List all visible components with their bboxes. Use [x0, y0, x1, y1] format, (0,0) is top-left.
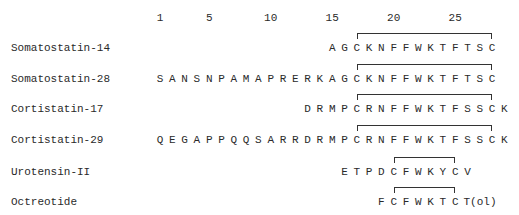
residue: R: [317, 103, 324, 115]
residue: R: [292, 134, 299, 146]
peptide-name: Somatostatin-14: [11, 42, 110, 54]
residue: C: [353, 42, 360, 54]
residue: G: [341, 73, 348, 85]
peptide-name: Cortistatin-29: [11, 134, 103, 146]
residue: M: [329, 103, 336, 115]
residue: F: [452, 103, 459, 115]
residue: T: [440, 42, 447, 54]
residue: G: [341, 42, 348, 54]
disulfide-bridge: [357, 125, 492, 131]
residue: C: [353, 73, 360, 85]
residue: M: [329, 134, 336, 146]
residue: C: [353, 134, 360, 146]
residue: T: [440, 134, 447, 146]
residue: E: [341, 166, 348, 178]
residue: W: [415, 42, 422, 54]
position-tick: 1: [157, 12, 164, 24]
residue: D: [304, 103, 311, 115]
residue: C: [489, 73, 496, 85]
residue: S: [476, 42, 483, 54]
residue: T: [353, 166, 360, 178]
residue: F: [390, 42, 397, 54]
residue: A: [267, 134, 274, 146]
residue: G: [181, 134, 188, 146]
residue: F: [403, 73, 410, 85]
residue: R: [317, 134, 324, 146]
disulfide-bridge: [357, 64, 492, 70]
residue: F: [390, 103, 397, 115]
residue: T: [440, 196, 447, 208]
disulfide-bridge: [394, 157, 456, 163]
residue: P: [218, 73, 225, 85]
residue: T: [440, 73, 447, 85]
residue: T: [464, 73, 471, 85]
residue: C: [489, 103, 496, 115]
peptide-sequence-alignment: 1510152025 Somatostatin-14AGCKNFFWKTFTSC…: [0, 0, 519, 215]
residue: C: [452, 166, 459, 178]
residue: K: [501, 134, 508, 146]
residue: C: [353, 103, 360, 115]
peptide-name: Octreotide: [11, 196, 77, 208]
residue: N: [206, 73, 213, 85]
residue: T: [440, 103, 447, 115]
residue: A: [194, 134, 201, 146]
disulfide-bridge: [394, 187, 456, 193]
residue: W: [415, 196, 422, 208]
position-tick: 20: [387, 12, 400, 24]
residue: C: [489, 42, 496, 54]
residue: N: [378, 42, 385, 54]
residue: P: [341, 103, 348, 115]
residue: S: [157, 73, 164, 85]
residue: P: [267, 73, 274, 85]
residue: S: [476, 134, 483, 146]
residue: N: [378, 134, 385, 146]
disulfide-bridge: [357, 94, 492, 100]
residue: V: [464, 166, 471, 178]
residue: C: [390, 166, 397, 178]
residue: D: [378, 166, 385, 178]
residue: Q: [157, 134, 164, 146]
peptide-name: Cortistatin-17: [11, 103, 103, 115]
residue: S: [255, 134, 262, 146]
residue: Q: [230, 134, 237, 146]
residue: F: [378, 196, 385, 208]
residue: E: [169, 134, 176, 146]
residue: S: [476, 103, 483, 115]
residue: W: [415, 103, 422, 115]
residue: R: [366, 103, 373, 115]
residue: N: [378, 103, 385, 115]
residue: W: [415, 134, 422, 146]
residue: F: [452, 73, 459, 85]
disulfide-bridge: [357, 33, 492, 39]
residue: R: [280, 73, 287, 85]
peptide-name: Urotensin-II: [11, 166, 90, 178]
residue: K: [501, 103, 508, 115]
residue: F: [403, 166, 410, 178]
residue: M: [243, 73, 250, 85]
position-tick: 5: [206, 12, 213, 24]
position-tick: 10: [264, 12, 277, 24]
residue: F: [403, 196, 410, 208]
residue: E: [292, 73, 299, 85]
residue: K: [427, 103, 434, 115]
residue: A: [329, 42, 336, 54]
residue: K: [366, 73, 373, 85]
residue: K: [427, 42, 434, 54]
residue: S: [464, 134, 471, 146]
residue: P: [206, 134, 213, 146]
position-tick: 25: [449, 12, 462, 24]
residue: F: [403, 103, 410, 115]
residue: T(ol): [464, 196, 497, 208]
residue: P: [366, 166, 373, 178]
residue: K: [366, 42, 373, 54]
residue: S: [464, 103, 471, 115]
residue: F: [403, 42, 410, 54]
residue: R: [366, 134, 373, 146]
residue: T: [464, 42, 471, 54]
residue: F: [403, 134, 410, 146]
residue: K: [427, 196, 434, 208]
residue: D: [304, 134, 311, 146]
residue: A: [255, 73, 262, 85]
residue: Y: [440, 166, 447, 178]
residue: N: [181, 73, 188, 85]
